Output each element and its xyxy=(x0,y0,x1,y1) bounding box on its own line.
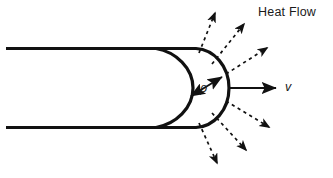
diagram-canvas xyxy=(0,0,333,178)
heat-arrow-up-2 xyxy=(212,24,244,64)
body-inner-nose-curve xyxy=(156,49,193,128)
heat-arrow-up-3 xyxy=(226,48,267,74)
radius-label: ρ xyxy=(200,82,207,95)
velocity-label: v xyxy=(285,81,291,94)
heat-arrow-up-1 xyxy=(199,13,215,53)
heat-flow-diagram: Heat Flow v ρ xyxy=(0,0,333,178)
heat-arrow-down-3 xyxy=(199,123,217,163)
heat-arrow-down-1 xyxy=(226,101,269,127)
heat-arrow-down-2 xyxy=(212,113,246,150)
heat-flow-label: Heat Flow xyxy=(258,6,316,19)
